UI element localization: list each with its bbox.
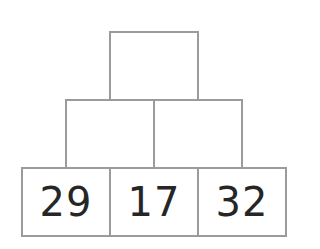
pyramid-cell-top[interactable] xyxy=(109,31,199,101)
pyramid-cell-middle-right[interactable] xyxy=(153,99,243,169)
pyramid-cell-bottom-right: 32 xyxy=(197,167,287,237)
pyramid-cell-bottom-center: 17 xyxy=(109,167,199,237)
pyramid-cell-bottom-left: 29 xyxy=(21,167,111,237)
pyramid-cell-middle-left[interactable] xyxy=(65,99,155,169)
